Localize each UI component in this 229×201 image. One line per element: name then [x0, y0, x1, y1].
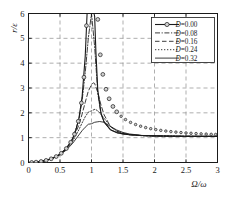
data-point-marker [64, 147, 68, 151]
data-point-marker [139, 125, 142, 128]
y-tick-label: 6 [20, 9, 24, 19]
data-point-marker [129, 121, 132, 124]
y-axis-label: r/ε [9, 23, 19, 33]
x-axis-label: Ω/ω [191, 179, 206, 189]
legend-label: D=0.24 [175, 46, 198, 54]
x-tick-label: 1.5 [118, 165, 129, 175]
data-point-marker [115, 110, 119, 114]
data-point-marker [190, 132, 193, 135]
data-point-marker [170, 130, 173, 133]
data-point-marker [175, 131, 178, 134]
x-axis-label-text: Ω/ω [191, 179, 206, 189]
legend-label: D=0.00 [175, 21, 198, 29]
data-point-marker [205, 133, 208, 136]
data-point-marker [101, 72, 105, 76]
legend: D=0.00D=0.08D=0.16D=0.24D=0.32 [152, 18, 215, 63]
legend-marker-circle [165, 22, 169, 26]
data-point-marker [155, 128, 158, 131]
x-tick-label: 0.5 [55, 165, 66, 175]
legend-label: D=0.32 [175, 55, 198, 63]
legend-label: D=0.08 [175, 30, 198, 38]
data-point-marker [180, 131, 183, 134]
y-tick-label: 3 [20, 83, 24, 93]
data-point-marker [54, 155, 58, 159]
x-tick-label: 2.5 [181, 165, 192, 175]
chart-figure-root: 00.511.522.53 0123456 r/ε Ω/ω D=0.00D=0.… [0, 0, 229, 201]
data-point-marker [73, 132, 77, 136]
data-point-marker [69, 140, 73, 144]
data-point-marker [80, 101, 84, 105]
data-point-marker [44, 158, 48, 162]
data-point-marker [160, 129, 163, 132]
y-axis-label-text: r/ε [9, 23, 19, 33]
data-point-marker [120, 115, 123, 118]
data-point-marker [210, 133, 213, 136]
legend-label: D=0.16 [175, 38, 198, 46]
data-point-marker [96, 18, 100, 22]
y-tick-label: 0 [20, 158, 24, 168]
y-tick-label: 1 [20, 133, 24, 143]
data-point-marker [165, 130, 168, 133]
x-tick-label: 0 [26, 165, 30, 175]
data-point-marker [111, 105, 115, 109]
data-point-marker [214, 133, 217, 136]
data-point-marker [149, 127, 152, 130]
x-tick-label: 1 [89, 165, 93, 175]
frequency-response-chart: 00.511.522.53 0123456 r/ε Ω/ω D=0.00D=0.… [0, 0, 229, 201]
data-point-marker [200, 133, 203, 136]
data-point-marker [85, 24, 89, 28]
data-point-marker [124, 118, 127, 121]
data-point-marker [195, 132, 198, 135]
y-tick-label: 2 [20, 108, 24, 118]
x-tick-label: 3 [215, 165, 219, 175]
data-point-marker [104, 87, 108, 91]
data-point-marker [185, 132, 188, 135]
data-point-marker [59, 151, 63, 155]
data-point-marker [98, 53, 102, 57]
data-point-marker [76, 119, 80, 123]
x-tick-label: 2 [152, 165, 156, 175]
data-point-marker [134, 123, 137, 126]
data-point-marker [82, 75, 86, 79]
data-point-marker [107, 97, 111, 101]
y-tick-label: 5 [20, 33, 24, 43]
data-point-marker [49, 157, 53, 161]
data-point-marker [144, 126, 147, 129]
